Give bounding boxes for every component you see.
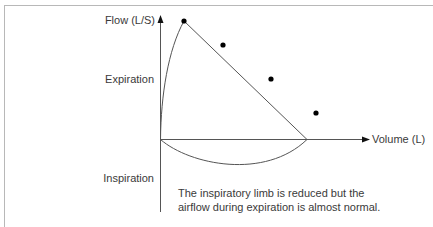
reference-dot	[220, 42, 225, 47]
x-axis-label: Volume (L)	[372, 133, 425, 146]
expiratory-decline-line	[184, 21, 307, 140]
reference-dot	[268, 76, 273, 81]
y-axis-arrow-icon	[158, 15, 164, 23]
expiration-label: Expiration	[105, 73, 154, 86]
x-axis-arrow-icon	[362, 137, 370, 143]
expiratory-rise-curve	[161, 21, 185, 140]
figure-caption: The inspiratory limb is reduced but the …	[178, 186, 380, 214]
y-axis-label: Flow (L/S)	[105, 14, 155, 27]
reference-dot-peak	[181, 18, 186, 23]
caption-line-2: airflow during expiration is almost norm…	[178, 200, 380, 214]
caption-line-1: The inspiratory limb is reduced but the	[178, 186, 380, 200]
inspiration-label: Inspiration	[103, 172, 154, 185]
reference-dot	[313, 110, 318, 115]
inspiratory-curve	[161, 140, 308, 165]
